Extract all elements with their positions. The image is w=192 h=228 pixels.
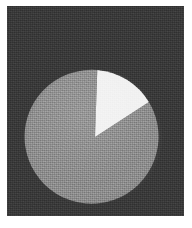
pie-chart-svg bbox=[7, 6, 184, 216]
pie-chart-figure bbox=[0, 0, 192, 228]
plot-area bbox=[7, 6, 184, 216]
pie-shading-overlay bbox=[28, 70, 162, 204]
